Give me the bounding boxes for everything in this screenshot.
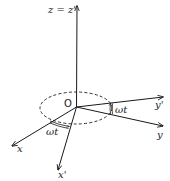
angle-label-y: ωt: [115, 104, 128, 115]
z-axis: [77, 6, 78, 107]
x-prime-axis-label: x': [58, 169, 66, 180]
rotating-frame-diagram: z = z' O y' y x x' ωt ωt: [0, 0, 170, 181]
angle-arc-y: [110, 104, 113, 115]
z-axis-label: z = z': [47, 4, 76, 15]
origin-label: O: [64, 98, 72, 109]
x-axis-label: x: [17, 143, 23, 154]
y-axis-label: y: [156, 129, 163, 140]
angle-label-x: ωt: [46, 126, 59, 137]
y-prime-axis-label: y': [154, 99, 163, 110]
